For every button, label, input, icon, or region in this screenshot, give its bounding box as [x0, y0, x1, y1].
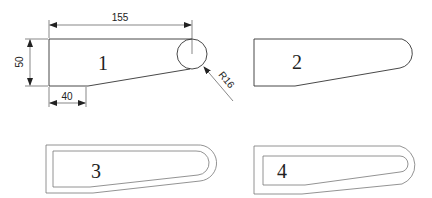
dim-40-text: 40 — [61, 91, 73, 102]
dim-50-text: 50 — [14, 56, 25, 68]
view-1-label: 1 — [98, 52, 108, 74]
view-4: 4 — [254, 146, 415, 194]
dim-155-text: 155 — [112, 12, 129, 23]
view-2: 2 — [254, 39, 412, 86]
dim-r16-text: R16 — [217, 69, 238, 90]
view-4-label: 4 — [277, 160, 287, 182]
view-3-inner-outline — [53, 151, 209, 187]
technical-drawing: 155 50 40 R16 1 2 3 4 — [0, 0, 432, 198]
view-2-label: 2 — [292, 51, 302, 73]
view-1: 155 50 40 R16 1 — [14, 12, 237, 107]
view-3: 3 — [46, 145, 217, 193]
view-3-outer-outline — [46, 145, 217, 193]
view-2-outline — [254, 39, 412, 86]
view-3-label: 3 — [91, 160, 101, 182]
view-1-outline — [49, 39, 192, 86]
